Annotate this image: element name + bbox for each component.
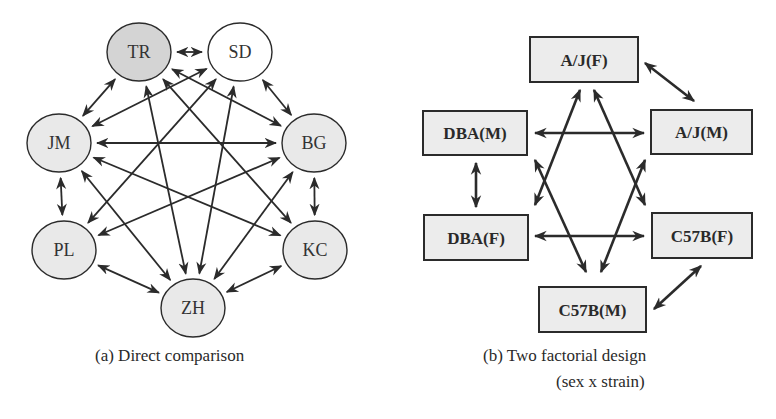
box-ajm: A/J(M) [651,110,752,154]
node-zh: ZH [161,279,225,337]
node-label: SD [228,42,251,62]
box-dbam: DBA(M) [423,111,527,155]
diagram-b-arrows [476,63,701,309]
box-label: C57B(F) [671,227,733,246]
diagram-b-boxes: A/J(F)DBA(M)A/J(M)DBA(F)C57B(F)C57B(M) [423,37,752,332]
box-label: DBA(M) [443,124,506,143]
diagram-a-edges [61,52,315,293]
arrow-ajm-c57bm [601,160,645,272]
edge-sd-bg [263,80,291,115]
node-tr: TR [107,23,171,81]
box-label: C57B(M) [559,301,627,320]
box-label: A/J(M) [675,123,728,142]
arrow-ajf-ajm [645,63,694,101]
arrow-ajf-dbaf [535,90,580,205]
edge-jm-pl [61,178,63,215]
edge-bg-zh [214,172,292,279]
box-label: A/J(F) [560,51,607,70]
node-jm: JM [27,114,91,172]
edge-tr-zh [146,86,186,273]
node-label: JM [47,133,70,153]
caption-sex-x-strain: (sex x strain) [556,372,645,392]
box-ajf: A/J(F) [530,37,638,82]
edge-kc-zh [227,266,281,292]
box-c57bf: C57B(F) [652,213,752,258]
edge-tr-jm [83,79,115,116]
node-label: ZH [181,298,205,318]
caption-two-factorial-design: (b) Two factorial design [483,346,646,366]
box-c57bm: C57B(M) [539,287,646,332]
diagram-a-nodes: TRSDJMBGPLKCZH [27,23,347,337]
node-sd: SD [208,23,272,81]
edge-pl-zh [98,265,159,292]
node-label: KC [302,240,327,260]
node-label: PL [53,240,74,260]
edge-jm-zh [82,171,170,280]
node-kc: KC [283,221,347,279]
box-dbaf: DBA(F) [424,215,528,260]
arrow-ajf-c57bf [594,90,645,205]
arrow-c57bf-c57bm [654,266,701,309]
node-bg: BG [282,114,346,172]
node-label: BG [301,133,326,153]
node-label: TR [127,42,150,62]
caption-direct-comparison: (a) Direct comparison [95,346,244,366]
node-pl: PL [32,221,96,279]
box-label: DBA(F) [447,229,505,248]
arrow-dbam-c57bm [535,160,586,272]
